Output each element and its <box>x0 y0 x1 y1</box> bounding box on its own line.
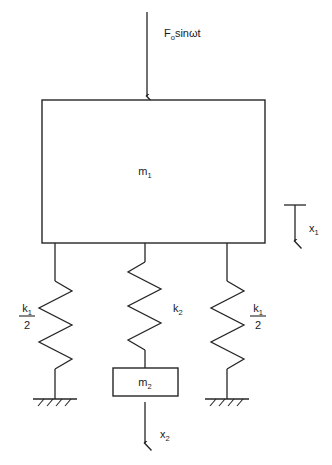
ground-right-hatching <box>210 399 243 406</box>
vibration-absorber-diagram: Fosinωt m1 x1 k1 2 <box>0 0 332 465</box>
force-label: Fosinωt <box>164 27 201 42</box>
ground-left-hatching <box>38 399 71 406</box>
force-arrow-group: Fosinωt <box>147 12 201 96</box>
displacement-x2-group: x2 <box>145 402 170 443</box>
spring-left-group: k1 2 <box>19 243 72 399</box>
spring-left-denominator: 2 <box>24 319 30 331</box>
spring-right-denominator: 2 <box>255 319 261 331</box>
mass2-group: m2 <box>113 368 178 396</box>
spring-right-group: k1 2 <box>211 243 266 399</box>
spring-right-label: k1 2 <box>250 302 266 331</box>
spring-left-numerator: k1 <box>22 302 32 317</box>
spring-left-coil <box>39 281 72 369</box>
spring-right-numerator: k1 <box>253 302 263 317</box>
mass1-block <box>42 100 265 243</box>
displacement-label-x2: x2 <box>160 428 170 443</box>
spring-center-label: k2 <box>173 302 183 317</box>
diagram-canvas: Fosinωt m1 x1 k1 2 <box>0 0 332 465</box>
ground-right-group <box>205 399 249 406</box>
spring-center-coil <box>128 262 161 350</box>
spring-left-label: k1 2 <box>19 302 35 331</box>
spring-right-coil <box>211 281 244 369</box>
mass1-group: m1 <box>42 100 265 243</box>
displacement-label-x1: x1 <box>309 222 319 237</box>
ground-left-group <box>33 399 77 406</box>
displacement-x1-group: x1 <box>284 205 319 241</box>
spring-center-group: k2 <box>128 243 183 368</box>
